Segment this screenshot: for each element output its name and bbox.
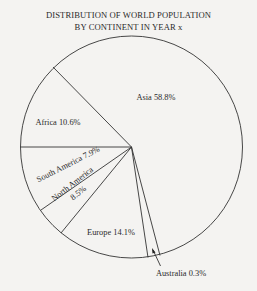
arrow-icon (152, 248, 156, 254)
pie-chart: DISTRIBUTION OF WORLD POPULATION BY CONT… (0, 0, 257, 291)
boundary-europe-australia (132, 147, 149, 258)
australia-callout (152, 248, 161, 266)
chart-subtitle: BY CONTINENT IN YEAR x (75, 22, 183, 32)
chart-subtitle-text: BY CONTINENT IN YEAR x (75, 22, 183, 32)
boundary-asia-africa (53, 67, 132, 147)
label-asia: Asia 58.8% (136, 93, 175, 102)
label-south-america: South America 7.9% (35, 145, 101, 185)
label-australia: Australia 0.3% (156, 269, 206, 278)
chart-title: DISTRIBUTION OF WORLD POPULATION (46, 10, 212, 20)
label-africa: Africa 10.6% (35, 118, 80, 127)
boundary-australia-asia (132, 147, 161, 256)
label-europe: Europe 14.1% (87, 228, 135, 237)
